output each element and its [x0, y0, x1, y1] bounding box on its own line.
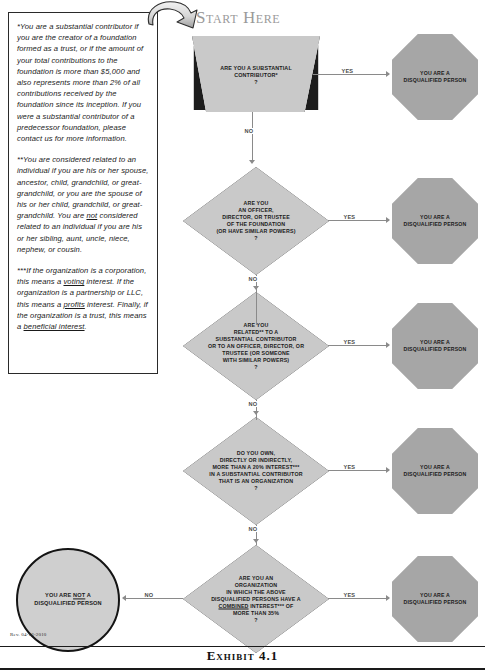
connector-no-4-arrow: [253, 539, 259, 543]
outcome-no-emphasis-not: NOT: [73, 592, 85, 598]
outcome-node-disqualified-3[interactable]: YOU ARE A DISQUALIFIED PERSON: [392, 303, 478, 389]
outcome-node-disqualified-4[interactable]: YOU ARE A DISQUALIFIED PERSON: [392, 428, 478, 514]
footnote-3-emphasis-voting: voting: [63, 277, 84, 286]
flowchart-page: *You are a substantial contributor if yo…: [0, 0, 485, 672]
connector-yes-2: [328, 220, 389, 221]
connector-yes-5: [328, 598, 389, 599]
exhibit-rule-bottom: [0, 668, 485, 670]
connector-yes-1-arrow: [386, 71, 390, 77]
question-2-text: ARE YOU AN OFFICER, DIRECTOR, OR TRUSTEE…: [183, 200, 329, 242]
connector-no-5: [126, 598, 183, 599]
revision-label: Rev. 04-16-2010: [10, 632, 47, 637]
outcome-node-disqualified-5[interactable]: YOU ARE A DISQUALIFIED PERSON: [392, 556, 478, 642]
footnote-related: **You are considered related to an indiv…: [17, 154, 149, 255]
question-5-text: ARE YOU AN ORGANIZATION IN WHICH THE ABO…: [183, 575, 329, 624]
start-here-label: Start Here: [196, 8, 280, 28]
outcome-4-text: YOU ARE A DISQUALIFIED PERSON: [392, 464, 478, 478]
exhibit-caption: Exhibit 4.1: [0, 648, 485, 664]
question-node-officer-director-trustee[interactable]: ARE YOU AN OFFICER, DIRECTOR, OR TRUSTEE…: [183, 167, 329, 275]
connector-no-2: [256, 275, 257, 325]
connector-no-5-arrow: [122, 595, 126, 601]
outcome-2-text: YOU ARE A DISQUALIFIED PERSON: [392, 214, 478, 228]
connector-yes-1: [313, 74, 389, 75]
connector-yes-4-arrow: [386, 467, 390, 473]
footnotes-box: *You are a substantial contributor if yo…: [8, 12, 158, 374]
question-1-text: ARE YOU A SUBSTANTIAL CONTRIBUTOR* ?: [192, 64, 320, 86]
edge-label-yes-2: YES: [342, 214, 357, 220]
outcome-node-disqualified-2[interactable]: YOU ARE A DISQUALIFIED PERSON: [392, 178, 478, 264]
question-5-emphasis-combined: COMBINED: [219, 603, 249, 609]
question-node-20-percent-interest[interactable]: DO YOU OWN, DIRECTLY OR INDIRECTLY, MORE…: [183, 417, 329, 525]
connector-no-1: [252, 112, 253, 162]
footnote-3-emphasis-beneficial: beneficial interest: [24, 322, 85, 331]
footnote-3-text-g: .: [85, 322, 87, 331]
question-node-combined-interest[interactable]: ARE YOU AN ORGANIZATION IN WHICH THE ABO…: [183, 545, 329, 653]
edge-label-no-3: NO: [247, 401, 259, 407]
question-4-text: DO YOU OWN, DIRECTLY OR INDIRECTLY, MORE…: [183, 450, 329, 492]
connector-yes-4: [328, 470, 389, 471]
footnote-2-emphasis-not: not: [86, 211, 97, 220]
footnote-interest: ***If the organization is a corporation,…: [17, 265, 149, 332]
edge-label-no-2: NO: [247, 276, 259, 282]
connector-no-3-arrow: [253, 411, 259, 415]
connector-yes-3-arrow: [386, 342, 390, 348]
footnote-substantial-contributor: *You are a substantial contributor if yo…: [17, 21, 149, 144]
outcome-3-text: YOU ARE A DISQUALIFIED PERSON: [392, 339, 478, 353]
connector-yes-5-arrow: [386, 595, 390, 601]
connector-yes-2-arrow: [386, 217, 390, 223]
footnote-1-text: *You are a substantial contributor if yo…: [17, 22, 143, 143]
connector-no-1-arrow: [249, 160, 255, 164]
edge-label-yes-5: YES: [342, 592, 357, 598]
edge-label-no-4: NO: [247, 526, 259, 532]
question-node-substantial-contributor[interactable]: ARE YOU A SUBSTANTIAL CONTRIBUTOR* ?: [192, 36, 320, 112]
connector-no-2-arrow: [253, 286, 259, 290]
outcome-1-text: YOU ARE A DISQUALIFIED PERSON: [392, 70, 478, 84]
outcome-node-disqualified-1[interactable]: YOU ARE A DISQUALIFIED PERSON: [392, 34, 478, 120]
outcome-5-text: YOU ARE A DISQUALIFIED PERSON: [392, 592, 478, 606]
edge-label-yes-3: YES: [342, 339, 357, 345]
connector-yes-3: [328, 345, 389, 346]
question-5-text-a: ARE YOU AN ORGANIZATION IN WHICH THE ABO…: [211, 575, 301, 602]
edge-label-no-5: NO: [143, 592, 155, 598]
edge-label-yes-4: YES: [342, 464, 357, 470]
footnote-3-emphasis-profits: profits: [63, 300, 84, 309]
edge-label-yes-1: YES: [340, 68, 355, 74]
outcome-no-text: YOU ARE NOT A DISQUALIFIED PERSON: [16, 592, 120, 607]
outcome-no-text-a: YOU ARE: [45, 592, 73, 598]
edge-label-no-1: NO: [243, 128, 255, 134]
exhibit-rule-top: [0, 646, 485, 647]
question-3-text: ARE YOU RELATED** TO A SUBSTANTIAL CONTR…: [183, 322, 329, 371]
